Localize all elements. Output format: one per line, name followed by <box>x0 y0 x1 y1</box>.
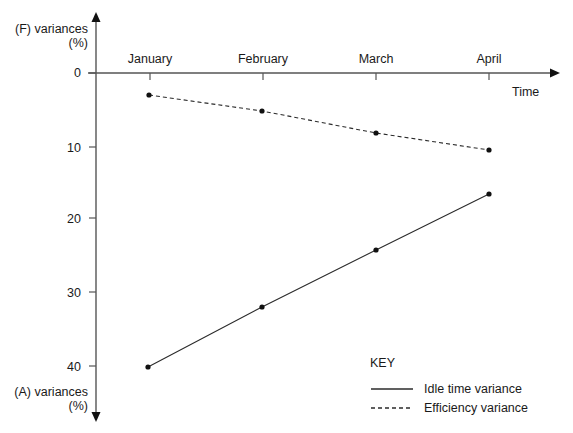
idle-time-variance-point-march <box>373 247 378 252</box>
y-tick-marks <box>89 73 96 366</box>
legend-entry-efficiency-variance: Efficiency variance <box>371 401 528 415</box>
y-tick-label-10: 10 <box>67 141 81 155</box>
legend: KEY Idle time variance Efficiency varian… <box>370 356 528 415</box>
y-tick-label-20: 20 <box>67 212 81 226</box>
y-tick-label-0: 0 <box>74 66 81 80</box>
idle-time-variance-point-february <box>259 304 264 309</box>
idle-time-variance-point-january <box>145 364 150 369</box>
idle-time-variance-line <box>148 194 489 367</box>
y-tick-label-40: 40 <box>67 360 81 374</box>
chart-page: 0 10 20 30 40 January February March Apr… <box>0 0 573 433</box>
y-axis-arrow-up-icon <box>92 12 101 22</box>
y-axis-arrow-down-icon <box>92 412 101 422</box>
x-axis-arrow-right-icon <box>550 69 560 78</box>
series-efficiency-variance <box>146 92 491 152</box>
y-axis-bottom-unit: (%) <box>69 399 88 413</box>
x-tick-labels: January February March April <box>128 52 502 66</box>
efficiency-variance-point-january <box>146 92 151 97</box>
y-tick-label-30: 30 <box>67 286 81 300</box>
series-idle-time-variance <box>145 191 491 369</box>
idle-time-variance-point-april <box>486 191 491 196</box>
x-axis-caption: Time <box>512 85 539 99</box>
efficiency-variance-point-march <box>373 130 378 135</box>
x-tick-label-january: January <box>128 52 173 66</box>
x-tick-marks <box>150 73 489 80</box>
legend-label-efficiency-variance: Efficiency variance <box>424 401 528 415</box>
efficiency-variance-point-february <box>259 108 264 113</box>
x-tick-label-march: March <box>359 52 394 66</box>
variances-line-chart: 0 10 20 30 40 January February March Apr… <box>0 0 573 433</box>
efficiency-variance-line <box>149 95 489 150</box>
x-tick-label-april: April <box>476 52 501 66</box>
y-axis-top-caption: (F) variances <box>15 22 88 36</box>
legend-entry-idle-time-variance: Idle time variance <box>371 382 522 396</box>
legend-label-idle-time-variance: Idle time variance <box>424 382 522 396</box>
x-tick-label-february: February <box>238 52 289 66</box>
efficiency-variance-point-april <box>486 147 491 152</box>
y-tick-labels: 0 10 20 30 40 <box>67 66 81 374</box>
y-axis-bottom-caption: (A) variances <box>14 385 88 399</box>
y-axis-top-unit: (%) <box>69 36 88 50</box>
legend-title: KEY <box>370 356 396 370</box>
